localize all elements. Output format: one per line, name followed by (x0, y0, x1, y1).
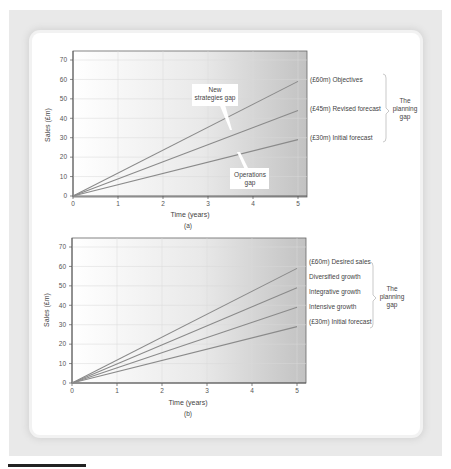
x-tick-label: 1 (116, 200, 120, 207)
x-tick-label: 0 (71, 200, 75, 207)
y-tick-label: 20 (59, 340, 67, 347)
chart-a: 010203040506070 012345 Sales (£m) Time (… (44, 51, 418, 230)
annotation-line-1: Operations (234, 171, 267, 179)
series-label: Diversified growth (309, 273, 361, 281)
y-tick-label: 0 (62, 379, 66, 386)
x-tick-label: 2 (160, 387, 164, 394)
x-tick-label: 3 (206, 200, 210, 207)
x-axis-label: Time (years) (168, 399, 207, 407)
y-tick-label: 10 (59, 360, 67, 367)
figure-svg: 010203040506070 012345 Sales (£m) Time (… (0, 0, 451, 469)
x-tick-label: 0 (70, 387, 74, 394)
annotation-line-2: gap (245, 179, 256, 187)
chart-caption: (a) (184, 222, 192, 230)
x-axis-ticks: 012345 (71, 196, 307, 207)
planning-gap-label-1: The (386, 285, 398, 292)
y-tick-label: 50 (59, 282, 67, 289)
y-tick-label: 30 (60, 134, 68, 141)
y-axis-ticks: 010203040506070 (59, 238, 72, 386)
x-axis-ticks: 012345 (70, 383, 306, 394)
series-label: (£30m) Initial forecast (310, 134, 373, 142)
x-tick-label: 5 (296, 200, 300, 207)
x-axis-label: Time (years) (170, 211, 209, 219)
series-label: Intensive growth (309, 303, 357, 311)
plot-area (73, 51, 307, 197)
x-tick-label: 4 (250, 387, 254, 394)
x-tick-label: 2 (161, 200, 165, 207)
series-label: (£60m) Desired sales (309, 258, 372, 266)
y-tick-label: 60 (59, 263, 67, 270)
y-axis-ticks: 010203040506070 (60, 51, 73, 199)
y-tick-label: 0 (63, 192, 67, 199)
y-axis-label: Sales (£m) (43, 293, 51, 327)
x-tick-label: 1 (115, 387, 119, 394)
x-tick-label: 5 (295, 387, 299, 394)
series-label: (£60m) Objectives (310, 76, 363, 84)
planning-gap-label-3: gap (387, 301, 398, 309)
y-tick-label: 30 (59, 321, 67, 328)
y-tick-label: 70 (59, 243, 67, 250)
y-tick-label: 40 (60, 115, 68, 122)
planning-gap-label-1: The (399, 97, 411, 104)
black-bar-decoration (8, 464, 86, 467)
x-tick-label: 3 (205, 387, 209, 394)
planning-gap-label-2: planning (393, 105, 418, 113)
planning-gap-label-2: planning (380, 293, 405, 301)
y-axis-label: Sales (£m) (44, 108, 52, 142)
annotation-line-2: strategies gap (195, 94, 236, 102)
series-labels: (£60m) Desired salesDiversified growthIn… (309, 258, 372, 326)
planning-gap-bracket (383, 74, 389, 142)
y-tick-label: 60 (60, 76, 68, 83)
series-labels: (£60m) Objectives(£45m) Revised forecast… (310, 76, 381, 142)
y-tick-label: 40 (59, 302, 67, 309)
y-tick-label: 20 (60, 153, 68, 160)
annotation-line-1: New (208, 86, 221, 93)
y-tick-label: 70 (60, 56, 68, 63)
chart-caption: (b) (184, 410, 192, 418)
x-tick-label: 4 (251, 200, 255, 207)
planning-gap-label-3: gap (400, 113, 411, 121)
chart-b: 010203040506070 012345 Sales (£m) Time (… (43, 238, 405, 418)
series-label: (£45m) Revised forecast (310, 105, 381, 113)
y-tick-label: 50 (60, 95, 68, 102)
series-label: Integrative growth (309, 288, 361, 296)
y-tick-label: 10 (60, 173, 68, 180)
series-label: (£30m) Initial forecast (309, 318, 372, 326)
plot-area (72, 238, 306, 383)
